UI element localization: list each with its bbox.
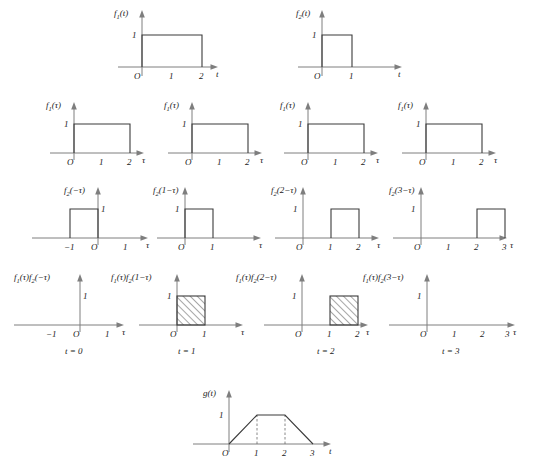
y-tick-one: 1: [292, 291, 297, 301]
rect-trace: [74, 124, 130, 153]
x-axis-label: τ: [376, 155, 380, 165]
time-caption: t = 1: [178, 346, 196, 356]
x-tick-2: 2: [480, 329, 485, 339]
y-axis-label: f2(3−τ): [389, 185, 415, 197]
rect-trace: [185, 209, 213, 238]
y-tick-one: 1: [64, 119, 69, 129]
y-axis-label: f1(t): [114, 8, 128, 20]
rect-trace: [70, 209, 98, 238]
y-tick-one: 1: [132, 30, 137, 40]
x-tick-1: 1: [452, 329, 457, 339]
rect-trace: [322, 35, 352, 67]
hatched-area: [330, 296, 358, 325]
plot-g-of-t: g(t) 1 O 1 2 3 t: [185, 382, 355, 464]
plot-f2-minus-tau: f2(−τ) 1 −1 O 1 τ: [26, 181, 156, 253]
x-tick-2: 2: [355, 329, 360, 339]
origin-label: O: [178, 242, 185, 252]
y-tick-one: 1: [298, 119, 303, 129]
y-axis-label: f1(τ)f2(−τ): [14, 272, 50, 284]
y-arrow-icon: [424, 274, 430, 282]
x-axis-label: τ: [366, 327, 370, 337]
x-tick-1: 1: [202, 329, 207, 339]
origin-label: O: [91, 242, 98, 252]
x-axis: [118, 64, 218, 70]
x-axis-label: t: [329, 446, 332, 456]
origin-label: O: [185, 157, 192, 167]
y-axis-label: f2(−τ): [64, 185, 85, 197]
plot-f1-tau-a: f1(τ) 1 O 1 2 τ: [44, 96, 164, 168]
y-arrow-icon: [182, 187, 188, 195]
x-axis-label: τ: [259, 240, 263, 250]
x-axis-label: τ: [146, 240, 150, 250]
y-tick-one: 1: [167, 291, 172, 301]
origin-label: O: [420, 329, 427, 339]
y-arrow-icon: [174, 274, 180, 282]
x-axis-label: τ: [241, 327, 245, 337]
hatched-area: [177, 296, 205, 325]
x-tick-2: 2: [479, 157, 484, 167]
y-axis-label: f2(t): [296, 8, 310, 20]
trapezoid-trace: [229, 415, 313, 444]
plot-f1-tau-c: f1(τ) 1 O 1 2 τ: [278, 96, 398, 168]
x-tick-1: 1: [446, 242, 451, 252]
x-tick-1: 1: [210, 242, 215, 252]
y-arrow-icon: [299, 274, 305, 282]
x-arrow-icon: [500, 235, 508, 241]
x-tick-1: 1: [217, 157, 222, 167]
y-axis-label: f1(τ): [398, 100, 413, 112]
x-axis-label: τ: [510, 240, 514, 250]
y-axis-label: f1(τ)f2(2−τ): [236, 272, 277, 284]
y-arrow-icon: [189, 102, 195, 110]
y-arrow-icon: [418, 187, 424, 195]
y-arrow-icon: [423, 102, 429, 110]
x-tick-1: 1: [99, 157, 104, 167]
y-axis-label: f2(1−τ): [153, 185, 179, 197]
y-axis-label: f1(τ)f2(1−τ): [111, 272, 152, 284]
x-tick-1: 1: [333, 157, 338, 167]
x-axis-label: τ: [513, 327, 517, 337]
origin-label: O: [295, 329, 302, 339]
y-tick-one: 1: [417, 291, 422, 301]
y-tick-one: 1: [182, 119, 187, 129]
x-tick-2: 2: [361, 157, 366, 167]
x-tick-1: 1: [327, 329, 332, 339]
x-tick-1: 1: [349, 71, 354, 81]
origin-label: O: [314, 71, 321, 81]
x-tick-neg1: −1: [46, 329, 57, 339]
y-tick-one: 1: [411, 204, 416, 214]
x-tick-1: 1: [254, 448, 259, 458]
y-axis-label: f1(τ)f2(3−τ): [363, 272, 404, 284]
time-caption: t = 0: [65, 346, 83, 356]
x-axis-label: t: [398, 69, 401, 79]
y-tick-one: 1: [293, 204, 298, 214]
y-arrow-icon: [305, 102, 311, 110]
y-axis-label: f1(τ): [46, 100, 61, 112]
x-tick-1: 1: [169, 71, 174, 81]
y-tick-one: 1: [175, 204, 180, 214]
plot-f1-tau-b: f1(τ) 1 O 1 2 τ: [162, 96, 282, 168]
x-axis-label: t: [216, 69, 219, 79]
y-tick-one: 1: [83, 291, 88, 301]
x-tick-2: 2: [127, 157, 132, 167]
rect-trace: [192, 124, 248, 153]
x-axis: [298, 64, 402, 70]
y-arrow-icon: [95, 187, 101, 195]
time-caption: t = 3: [442, 346, 460, 356]
rect-trace: [308, 124, 364, 153]
y-axis-label: f2(2−τ): [271, 185, 297, 197]
x-tick-3: 3: [501, 242, 507, 252]
y-arrow-icon: [71, 102, 77, 110]
y-tick-one: 1: [312, 30, 317, 40]
y-arrow-icon: [300, 187, 306, 195]
x-axis-label: τ: [122, 327, 126, 337]
origin-label: O: [301, 157, 308, 167]
plot-f1-tau-d: f1(τ) 1 O 1 2 τ: [396, 96, 516, 168]
x-tick-2: 2: [474, 242, 479, 252]
rect-trace: [142, 35, 202, 67]
origin-label: O: [67, 157, 74, 167]
x-tick-2: 2: [356, 242, 361, 252]
y-tick-one: 1: [219, 410, 224, 420]
y-axis-label: g(t): [203, 388, 216, 398]
x-axis-label: τ: [260, 155, 264, 165]
x-tick-1: 1: [123, 242, 128, 252]
